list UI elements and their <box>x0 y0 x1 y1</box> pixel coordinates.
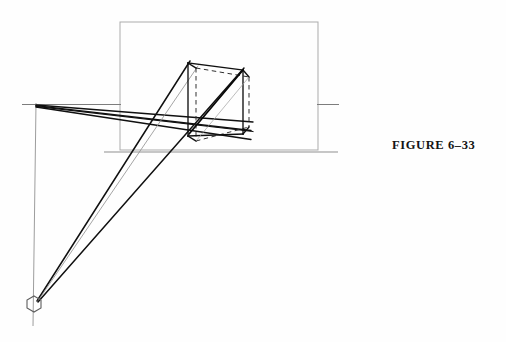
figure-page: FIGURE 6–33 <box>0 0 506 342</box>
picture-plane-rectangle <box>120 22 318 150</box>
ray-sp-to-box-top-right <box>38 68 244 302</box>
box-edge-bottom-left-receding <box>188 136 196 141</box>
station-ray-group <box>37 61 244 302</box>
ray-sp-to-box-corner <box>38 66 199 302</box>
vertical-measuring-line <box>33 103 36 326</box>
picture-plane-group <box>120 22 318 150</box>
station-point-hexagon <box>27 296 41 312</box>
figure-caption: FIGURE 6–33 <box>392 138 475 153</box>
box-inner-construction-line <box>196 77 249 141</box>
ray-vpl-to-box-top-front <box>36 106 251 131</box>
perspective-construction-drawing <box>0 0 506 342</box>
box-face-diagonal <box>189 70 243 134</box>
ray-sp-to-box-top-left <box>37 61 190 301</box>
